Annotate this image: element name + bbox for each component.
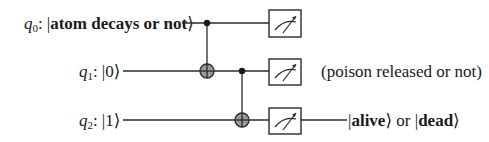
q2-output-annotation: |alive⟩ or |dead⟩ [348, 111, 460, 130]
target-xor-icon [235, 113, 249, 127]
cnot-gate-q0-q1 [200, 20, 214, 78]
quantum-circuit: q0:|atom decays or not⟩ q1:|0⟩ q2:|1⟩ [0, 0, 489, 142]
control-dot-icon [239, 68, 245, 74]
measure-gate-q1 [269, 59, 301, 85]
control-dot-icon [204, 20, 210, 26]
qubit-label-q0: q0:|atom decays or not⟩ [24, 14, 194, 34]
measure-gate-q2 [269, 108, 301, 134]
q1-annotation: (poison released or not) [321, 62, 482, 81]
measure-gate-q0 [269, 10, 301, 37]
target-xor-icon [200, 64, 214, 78]
qubit-label-q1: q1:|0⟩ [79, 62, 120, 82]
qubit-label-q2: q2:|1⟩ [79, 111, 120, 131]
cnot-gate-q1-q2 [235, 68, 249, 127]
